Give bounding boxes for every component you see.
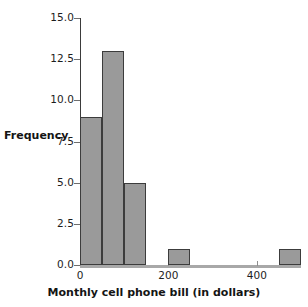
y-tick-label: 2.5 [38,217,74,229]
histogram-bar [102,51,124,265]
histogram-bar [80,117,102,265]
histogram-bar [124,183,146,265]
y-tick-mark [74,100,80,101]
y-tick-label: 15.0 [38,11,74,23]
x-axis-title: Monthly cell phone bill (in dollars) [0,286,308,299]
x-tick-label: 200 [158,269,178,281]
y-tick-mark [74,18,80,19]
y-tick-label: 0.0 [38,258,74,270]
x-tick-label: 400 [247,269,267,281]
y-tick-label: 12.5 [38,52,74,64]
y-axis-title: Frequency [4,129,68,142]
histogram-figure: 0.02.55.07.510.012.515.0 0200400 Frequen… [0,0,308,307]
y-tick-label: 10.0 [38,93,74,105]
x-axis-line [80,265,301,268]
x-tick-mark [257,261,258,266]
y-tick-mark [74,59,80,60]
y-tick-label: 5.0 [38,176,74,188]
x-tick-label: 0 [77,269,84,281]
histogram-bar [279,249,301,265]
histogram-bar [168,249,190,265]
